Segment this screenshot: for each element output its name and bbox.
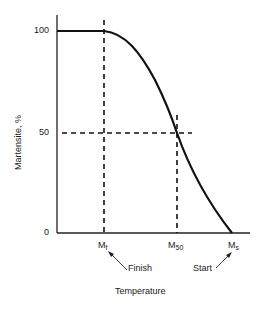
y-axis-label: Martensite, %: [14, 115, 23, 170]
finish-annotation: Finish: [128, 264, 152, 273]
y-tick-100: 100: [19, 26, 49, 35]
y-tick-50: 50: [19, 128, 49, 137]
m50-subscript: 50: [176, 244, 184, 251]
mf-subscript: f: [106, 244, 108, 251]
y-tick-0: 0: [19, 228, 49, 237]
finish-arrow: [110, 253, 127, 270]
x-tick-mf: Mf: [98, 241, 107, 250]
start-annotation: Start: [193, 264, 212, 273]
transformation-curve: [57, 31, 232, 233]
ms-subscript: s: [236, 244, 240, 251]
m50-symbol: M: [168, 240, 176, 250]
mf-symbol: M: [98, 240, 106, 250]
x-tick-ms: Ms: [228, 241, 239, 250]
x-tick-m50: M50: [168, 241, 183, 250]
martensite-chart: 100 50 0 Martensite, % Mf M50 Ms Finish …: [0, 0, 268, 309]
ms-symbol: M: [228, 240, 236, 250]
x-axis-label: Temperature: [115, 287, 166, 296]
